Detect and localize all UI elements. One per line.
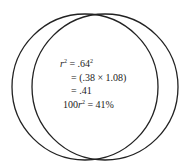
equation-line-1: r2 = .642 — [60, 58, 93, 70]
right-circle — [32, 14, 178, 160]
eq-text: = .64 — [67, 58, 90, 69]
eq-prefix: 100 — [63, 99, 78, 110]
eq-text: = 41% — [85, 99, 114, 110]
eq-text: = (.38 × 1.08) — [71, 72, 126, 83]
equation-line-2: = (.38 × 1.08) — [71, 72, 126, 84]
superscript: 2 — [90, 58, 93, 64]
equation-line-4: 100r2 = 41% — [63, 99, 114, 111]
eq-text: = .41 — [71, 85, 92, 96]
equation-line-3: = .41 — [71, 85, 92, 97]
